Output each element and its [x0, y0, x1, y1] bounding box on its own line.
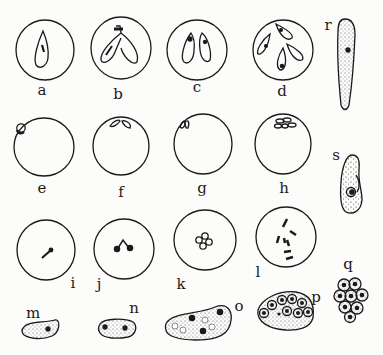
cell-h: [255, 114, 311, 174]
label-i: i: [71, 276, 76, 291]
label-n: n: [129, 301, 139, 316]
form-n: [99, 319, 136, 338]
label-b: b: [113, 87, 123, 102]
label-g: g: [197, 181, 207, 196]
form-s: [341, 155, 362, 213]
label-k: k: [176, 277, 185, 292]
label-p: p: [311, 290, 321, 305]
label-l: l: [256, 265, 261, 280]
label-o: o: [234, 299, 243, 314]
label-f: f: [118, 185, 124, 200]
cell-c: [167, 20, 227, 80]
label-h: h: [279, 181, 289, 196]
cell-e: [14, 118, 74, 176]
label-r: r: [324, 18, 331, 33]
label-j: j: [97, 277, 102, 292]
label-a: a: [38, 83, 47, 98]
cell-j: [94, 219, 154, 279]
figure-drawing: [0, 0, 383, 355]
cell-f: [93, 117, 149, 175]
form-q: [334, 278, 368, 323]
form-o: [165, 306, 231, 340]
cell-k: [174, 210, 236, 270]
cell-l: [256, 207, 316, 267]
label-s: s: [332, 148, 340, 163]
label-q: q: [343, 257, 353, 272]
cell-g: [174, 114, 232, 174]
label-d: d: [277, 84, 287, 99]
figure-plate: a b c d e f g h i j k l m n o p q r s: [0, 0, 383, 355]
cell-a: [16, 20, 74, 80]
cell-b: [91, 17, 151, 79]
label-e: e: [38, 181, 47, 196]
form-m: [22, 320, 59, 339]
label-c: c: [193, 80, 201, 95]
form-r: [338, 19, 355, 110]
cell-i: [17, 220, 75, 280]
label-m: m: [26, 306, 40, 321]
form-p: [258, 292, 314, 330]
cell-d: [253, 20, 313, 80]
